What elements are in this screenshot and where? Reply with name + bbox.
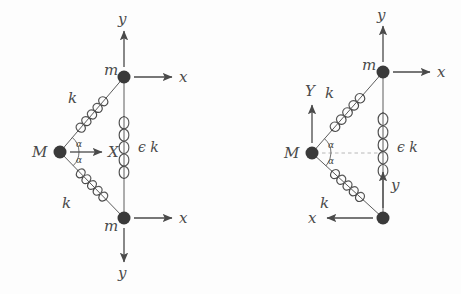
spring-k_top [312,72,383,153]
node-right-panel-m_top [377,66,390,79]
spring-coil-back [383,113,388,177]
node-left-panel-M [54,146,67,159]
spring-coil [331,171,364,201]
spring-coil-back [330,94,363,131]
axis-label-bottom-y-arrow: y [118,266,126,281]
node-left-panel-m_bot [118,212,131,225]
node-right-panel-m_bot [377,212,390,225]
spring-label-k_bot: k [62,196,71,211]
mass-label-left-panel-m_top: m [104,63,118,78]
spring-label-k_top: k [68,91,77,106]
spring-coil [378,113,383,177]
node-right-panel-M [306,147,319,160]
spring-coil [332,95,365,132]
mass-label-left-panel-m_bot: m [104,219,118,234]
spring-coil-back [124,116,129,178]
figure-canvas: kkϵ kααXxyxyMmmkkϵ kααYxyxyMm [0,0,461,294]
spring-coil [78,98,108,132]
mass-label-right-panel-M: M [284,146,299,161]
axis-label-top-x-arrow: x [179,70,187,85]
spring-coil [76,170,106,200]
mass-label-left-panel-M: M [32,145,47,160]
axis-label-bottom-x-arrow: x [179,211,187,226]
angle-label-alpha_lower: α [328,157,334,166]
angle-label-alpha_lower: α [76,156,82,165]
axis-label-Y-arrow: Y [305,84,315,99]
angle-label-alpha_upper: α [328,141,334,150]
spring-label-k_top: k [325,86,334,101]
spring-axis-line [312,72,383,153]
spring-label-eps_k: ϵ k [397,140,418,154]
spring-coil-back [332,170,365,200]
axis-label-top-y-arrow: y [118,12,126,27]
node-left-panel-m_top [118,71,131,84]
spring-coil [119,116,124,178]
axis-label-X-arrow: X [108,145,119,160]
diagram-svg [0,0,461,294]
spring-label-k_bot: k [320,196,329,211]
mass-label-right-panel-m_top: m [362,58,376,73]
spring-eps_k [119,77,129,218]
spring-coil-back [78,169,108,199]
angle-label-alpha_upper: α [76,140,82,149]
axis-label-top-y-arrow: y [377,8,385,23]
axis-label-bottom-y-arrow: y [391,178,399,193]
spring-label-eps_k: ϵ k [138,140,159,154]
axis-label-bottom-x-arrow: x [308,211,316,226]
axis-label-top-x-arrow: x [437,65,445,80]
spring-coil-back [76,97,106,131]
